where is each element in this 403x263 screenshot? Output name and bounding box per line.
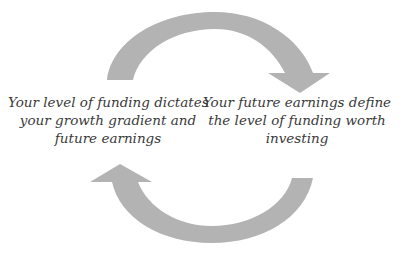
funding-line-2: your growth gradient and (8, 111, 208, 129)
funding-line-1: Your level of funding dictates (8, 93, 208, 111)
earnings-line-3: investing (197, 129, 397, 147)
earnings-node-text: Your future earnings define the level of… (197, 93, 397, 147)
funding-line-3: future earnings (8, 129, 208, 147)
earnings-line-1: Your future earnings define (197, 93, 397, 111)
top-curved-arrow-icon (107, 12, 330, 93)
cycle-diagram: Your level of funding dictates your grow… (0, 0, 403, 263)
earnings-line-2: the level of funding worth (197, 111, 397, 129)
funding-node-text: Your level of funding dictates your grow… (8, 93, 208, 147)
bottom-curved-arrow-icon (90, 164, 313, 243)
